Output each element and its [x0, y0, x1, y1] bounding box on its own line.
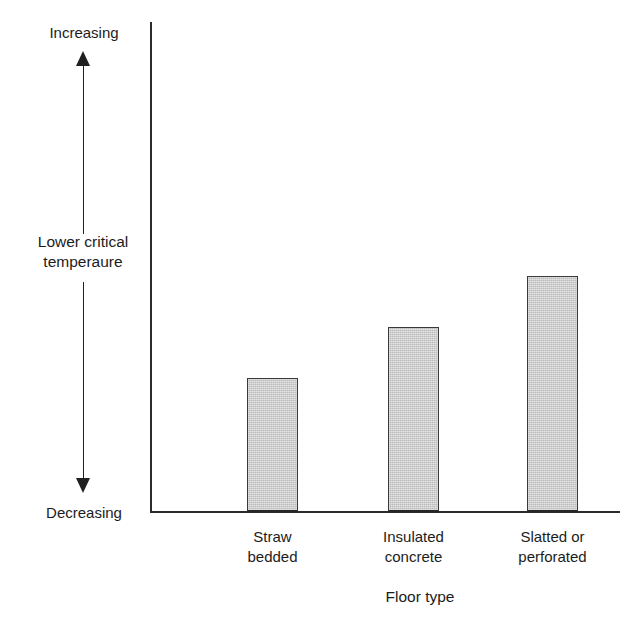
x-tick-line2: perforated — [518, 548, 586, 565]
y-axis-title: Lower criticaltemperaure — [8, 232, 158, 272]
arrow-shaft-lower — [83, 282, 85, 478]
x-axis-title: Floor type — [325, 587, 515, 607]
bar-insulated-concrete — [388, 327, 439, 512]
bar-chart-figure: Increasing Lower criticaltemperaure Decr… — [0, 0, 639, 624]
arrow-shaft-upper — [83, 64, 85, 234]
arrow-bottom-label: Decreasing — [14, 503, 154, 522]
y-axis-title-line2: temperaure — [43, 253, 122, 270]
bar-slatted-or-perforated — [527, 276, 578, 512]
x-tick-line2: concrete — [385, 548, 443, 565]
x-tick-label-straw-bedded: Strawbedded — [212, 527, 333, 567]
x-tick-line1: Slatted or — [520, 528, 584, 545]
y-axis-title-line1: Lower critical — [38, 233, 128, 250]
x-tick-label-slatted-or-perforated: Slatted orperforated — [492, 527, 613, 567]
bar-straw-bedded — [247, 378, 298, 512]
x-tick-line2: bedded — [247, 548, 297, 565]
y-axis-line — [150, 22, 152, 513]
arrow-top-label: Increasing — [14, 23, 154, 42]
arrow-down-head — [76, 478, 90, 493]
x-tick-label-insulated-concrete: Insulatedconcrete — [353, 527, 474, 567]
x-tick-line1: Straw — [253, 528, 291, 545]
x-tick-line1: Insulated — [383, 528, 444, 545]
